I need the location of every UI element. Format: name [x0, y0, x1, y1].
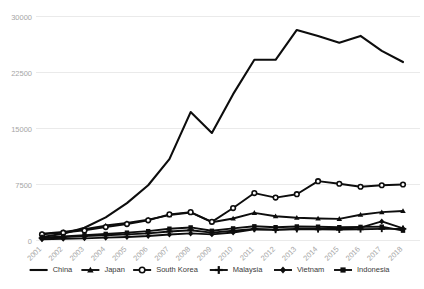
- x-axis-tick-label: 2015: [323, 245, 341, 263]
- legend-item-label: South Korea: [156, 265, 199, 274]
- data-point-marker: [146, 229, 150, 233]
- x-axis-tick-label: 2011: [238, 245, 256, 263]
- legend-item-vietnam[interactable]: Vietnam: [274, 265, 324, 274]
- data-point-marker: [210, 220, 215, 225]
- data-point-marker: [337, 181, 342, 186]
- legend-item-malaysia[interactable]: Malaysia: [210, 265, 263, 274]
- data-point-marker: [139, 267, 144, 272]
- y-axis-tick-label: 15000: [11, 125, 32, 134]
- legend-item-japan[interactable]: Japan: [81, 265, 124, 274]
- legend-item-china[interactable]: China: [30, 265, 73, 274]
- x-axis-tick-label: 2002: [46, 245, 64, 263]
- x-axis-tick-label: 2017: [365, 245, 383, 263]
- data-point-marker: [358, 184, 363, 189]
- data-point-marker: [125, 230, 129, 234]
- x-axis-tick-label: 2008: [174, 245, 192, 263]
- y-axis-tick-label: 7500: [15, 181, 32, 190]
- y-axis-tick-label: 0: [28, 237, 32, 246]
- data-point-marker: [61, 234, 65, 238]
- y-axis-tick-labels: 07500150002250030000: [11, 13, 32, 246]
- x-axis-tick-label: 2013: [280, 245, 298, 263]
- chart-legend: ChinaJapanSouth KoreaMalaysiaVietnamIndo…: [30, 265, 391, 274]
- series-china: [42, 30, 403, 237]
- data-point-marker: [380, 224, 384, 228]
- data-point-marker: [231, 206, 236, 211]
- data-point-marker: [379, 218, 384, 224]
- data-point-marker: [337, 225, 341, 229]
- data-point-marker: [231, 226, 235, 230]
- legend-item-label: Indonesia: [357, 265, 390, 274]
- data-point-marker: [273, 195, 278, 200]
- x-axis-tick-label: 2012: [259, 245, 277, 263]
- data-point-marker: [82, 233, 86, 237]
- x-axis-tick-label: 2003: [68, 245, 86, 263]
- data-point-marker: [358, 225, 362, 229]
- data-point-marker: [295, 192, 300, 197]
- x-axis-tick-label: 2016: [344, 245, 362, 263]
- data-point-marker: [103, 225, 108, 230]
- data-point-marker: [316, 224, 320, 228]
- data-point-marker: [401, 228, 405, 232]
- data-point-marker: [167, 227, 171, 231]
- legend-item-label: China: [53, 265, 73, 274]
- x-axis-tick-labels: 2001200220032004200520062007200820092010…: [25, 245, 404, 263]
- data-point-marker: [188, 210, 193, 215]
- x-axis-tick-label: 2001: [25, 245, 43, 263]
- data-point-marker: [252, 191, 257, 196]
- x-axis-tick-label: 2014: [301, 245, 319, 263]
- gridlines: [36, 17, 420, 241]
- data-point-marker: [215, 266, 223, 274]
- x-axis-tick-label: 2006: [131, 245, 149, 263]
- data-point-marker: [40, 235, 44, 239]
- x-axis-tick-label: 2004: [89, 245, 107, 263]
- data-point-marker: [273, 225, 277, 229]
- y-axis-tick-label: 30000: [11, 13, 32, 22]
- legend-item-south-korea[interactable]: South Korea: [133, 265, 199, 274]
- data-point-marker: [210, 229, 214, 233]
- x-axis-tick-label: 2018: [386, 245, 404, 263]
- legend-item-indonesia[interactable]: Indonesia: [334, 265, 390, 274]
- data-point-marker: [82, 228, 87, 233]
- legend-item-label: Vietnam: [297, 265, 324, 274]
- data-point-marker: [188, 225, 192, 229]
- data-point-marker: [104, 232, 108, 236]
- x-axis-tick-label: 2007: [153, 245, 171, 263]
- data-point-marker: [125, 222, 130, 227]
- data-point-marker: [252, 224, 256, 228]
- data-point-marker: [401, 182, 406, 187]
- legend-item-label: Japan: [104, 265, 124, 274]
- series-line: [42, 30, 403, 237]
- legend-item-label: Malaysia: [233, 265, 263, 274]
- x-axis-tick-label: 2009: [195, 245, 213, 263]
- data-point-marker: [167, 212, 172, 217]
- data-series: [39, 30, 407, 242]
- x-axis-tick-label: 2005: [110, 245, 128, 263]
- x-axis-tick-label: 2010: [216, 245, 234, 263]
- chart-plot-area: 07500150002250030000 2001200220032004200…: [0, 0, 424, 289]
- data-point-marker: [295, 224, 299, 228]
- data-point-marker: [340, 267, 345, 272]
- data-point-marker: [379, 183, 384, 188]
- y-axis-tick-label: 22500: [11, 69, 32, 78]
- line-chart: 07500150002250030000 2001200220032004200…: [0, 0, 424, 289]
- data-point-marker: [146, 218, 151, 223]
- data-point-marker: [280, 266, 286, 273]
- data-point-marker: [316, 179, 321, 184]
